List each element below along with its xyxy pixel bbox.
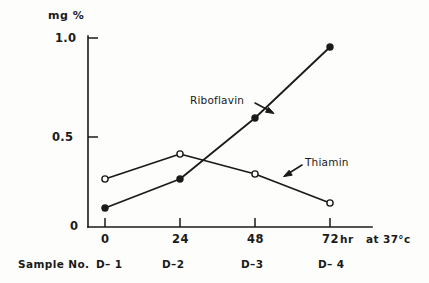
series-label-thiamin: Thiamin xyxy=(305,156,349,168)
y-axis-ticks xyxy=(88,38,98,137)
data-point xyxy=(102,205,108,211)
series-riboflavin-line xyxy=(105,47,330,208)
data-point xyxy=(252,115,258,121)
thiamin-arrow-icon xyxy=(284,165,303,177)
riboflavin-arrow-icon xyxy=(255,103,274,114)
sample-label-d2: D–2 xyxy=(162,258,184,270)
x-axis-unit-label: hr xyxy=(340,233,353,245)
y-tick-label-0.5: 0.5 xyxy=(52,130,73,144)
y-tick-label-1.0: 1.0 xyxy=(55,31,76,45)
x-axis-ticks xyxy=(105,218,330,227)
data-point xyxy=(177,176,183,182)
data-point xyxy=(102,176,108,182)
data-point xyxy=(327,44,333,50)
series-label-riboflavin: Riboflavin xyxy=(190,94,244,106)
series-riboflavin xyxy=(102,44,333,211)
data-point xyxy=(327,200,333,206)
sample-label-d4: D– 4 xyxy=(318,258,345,270)
sample-label-d3: D–3 xyxy=(241,258,263,270)
x-tick-label-72: 72 xyxy=(322,232,339,246)
x-tick-label-0: 0 xyxy=(101,232,110,246)
sample-row-header: Sample No. xyxy=(18,258,89,270)
data-point xyxy=(177,151,183,157)
chart-figure: mg % 1.0 0.5 0 0 24 48 72 hr at 37°c Rib… xyxy=(0,0,429,283)
x-tick-label-48: 48 xyxy=(247,232,264,246)
x-tick-label-24: 24 xyxy=(172,232,189,246)
x-axis-condition-label: at 37°c xyxy=(366,233,411,245)
y-axis-title: mg % xyxy=(48,9,84,22)
series-thiamin xyxy=(102,151,333,206)
sample-label-d1: D– 1 xyxy=(96,258,123,270)
data-point xyxy=(252,171,258,177)
annotation-arrows xyxy=(255,103,302,177)
y-tick-label-0: 0 xyxy=(70,219,78,233)
